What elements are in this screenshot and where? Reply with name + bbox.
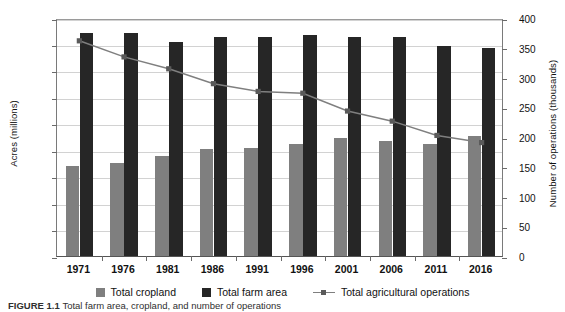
bar-cropland-1991	[244, 148, 258, 256]
x-axis-tick-mark	[236, 256, 237, 261]
y-axis-left-tick-mark	[52, 178, 57, 179]
y-axis-right-tick-label: 0	[519, 253, 559, 263]
legend-line-swatch-icon	[313, 288, 335, 297]
bar-farm-area-1996	[303, 35, 317, 256]
x-axis-tick-mark	[415, 256, 416, 261]
y-axis-right-tick-mark	[502, 168, 507, 169]
y-axis-left-tick-mark	[52, 125, 57, 126]
x-axis-tick-mark	[459, 256, 460, 261]
figure-caption-label: FIGURE 1.1	[8, 300, 60, 311]
y-axis-right-tick-mark	[502, 228, 507, 229]
figure-caption-text: Total farm area, cropland, and number of…	[62, 300, 281, 311]
bar-cropland-1976	[110, 163, 124, 256]
plot-area: 020406080100120140160180 050100150200250…	[56, 19, 503, 257]
x-axis-tick-mark	[325, 256, 326, 261]
y-axis-right-tick-label: 300	[519, 75, 559, 85]
bar-cropland-2001	[334, 138, 348, 256]
bar-cropland-2011	[423, 144, 437, 256]
x-axis-tick-mark	[191, 256, 192, 261]
y-axis-right-tick-label: 250	[519, 104, 559, 114]
x-axis-tick-mark	[281, 256, 282, 261]
bar-farm-area-2016	[482, 48, 496, 256]
y-axis-right-tick-mark	[502, 79, 507, 80]
y-axis-right-tick-mark	[502, 258, 507, 259]
legend-item-2[interactable]: Total agricultural operations	[313, 286, 469, 298]
y-axis-left-title: Acres (millions)	[8, 74, 19, 194]
x-axis-tick-mark	[370, 256, 371, 261]
bar-farm-area-1981	[169, 42, 183, 256]
x-axis-label-2016: 2016	[451, 263, 511, 275]
gridline	[57, 20, 502, 21]
bar-farm-area-2011	[437, 46, 451, 256]
legend-label: Total agricultural operations	[341, 286, 469, 298]
bar-farm-area-1971	[80, 33, 94, 256]
y-axis-right-tick-label: 350	[519, 45, 559, 55]
y-axis-right-tick-mark	[502, 139, 507, 140]
bar-farm-area-1986	[214, 37, 228, 256]
bar-farm-area-2001	[348, 37, 362, 256]
bar-cropland-1996	[289, 144, 303, 256]
y-axis-right-tick-mark	[502, 49, 507, 50]
legend-label: Total cropland	[111, 286, 176, 298]
y-axis-left-tick-mark	[52, 46, 57, 47]
bar-cropland-1971	[66, 166, 80, 256]
y-axis-left-tick-mark	[52, 152, 57, 153]
y-axis-left-tick-mark	[52, 205, 57, 206]
x-axis-tick-mark	[102, 256, 103, 261]
y-axis-left-tick-mark	[52, 99, 57, 100]
y-axis-left-tick-mark	[52, 20, 57, 21]
bar-cropland-1981	[155, 156, 169, 256]
y-axis-right-tick-label: 50	[519, 223, 559, 233]
y-axis-left-tick-mark	[52, 258, 57, 259]
legend-square-swatch-icon	[202, 288, 211, 297]
y-axis-left-tick-mark	[52, 231, 57, 232]
bar-cropland-2006	[379, 141, 393, 256]
legend-square-swatch-icon	[96, 288, 105, 297]
chart-legend: Total croplandTotal farm areaTotal agric…	[0, 284, 565, 300]
y-axis-left-tick-mark	[52, 72, 57, 73]
figure-container: Acres (millions) Number of operations (t…	[0, 0, 565, 312]
y-axis-right-tick-label: 100	[519, 194, 559, 204]
bar-farm-area-1991	[258, 37, 272, 256]
y-axis-right-tick-label: 200	[519, 134, 559, 144]
legend-label: Total farm area	[217, 286, 287, 298]
y-axis-right-tick-mark	[502, 109, 507, 110]
y-axis-right-tick-mark	[502, 198, 507, 199]
bar-cropland-1986	[200, 149, 214, 256]
bar-farm-area-2006	[393, 37, 407, 256]
x-axis-tick-mark	[146, 256, 147, 261]
bar-cropland-2016	[468, 136, 482, 256]
legend-item-1[interactable]: Total farm area	[202, 286, 287, 298]
y-axis-right-tick-label: 400	[519, 15, 559, 25]
bar-farm-area-1976	[124, 33, 138, 256]
legend-item-0[interactable]: Total cropland	[96, 286, 176, 298]
y-axis-right-tick-mark	[502, 20, 507, 21]
y-axis-right-tick-label: 150	[519, 164, 559, 174]
figure-caption: FIGURE 1.1 Total farm area, cropland, an…	[8, 300, 281, 312]
